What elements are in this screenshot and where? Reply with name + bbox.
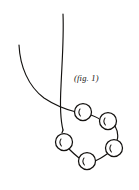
figure-canvas: (fig. 1): [0, 0, 139, 190]
bead-bottom: [79, 153, 96, 170]
beads-group: [56, 104, 123, 170]
left-arc-thread: [19, 45, 76, 112]
sketch-drawing: [0, 0, 139, 190]
connector-bead3-bead4: [95, 154, 107, 161]
figure-caption: (fig. 1): [74, 74, 99, 83]
bead-right: [106, 140, 123, 157]
connector-bead4-bead5: [69, 149, 79, 158]
bead-left: [56, 134, 73, 151]
threads-group: [19, 14, 76, 130]
connector-bead1-bead2: [91, 115, 100, 120]
bead-outline-2: [100, 113, 117, 130]
bead-top-left: [75, 104, 92, 121]
bead-outline-4: [79, 153, 96, 170]
bead-outline-1: [75, 104, 92, 121]
bead-outline-5: [56, 134, 73, 151]
vertical-thread: [60, 14, 63, 130]
connector-bead2-bead3: [115, 126, 118, 141]
bead-top-right: [100, 113, 117, 130]
connector-bead5-thread: [62, 130, 63, 133]
bead-outline-3: [106, 140, 123, 157]
